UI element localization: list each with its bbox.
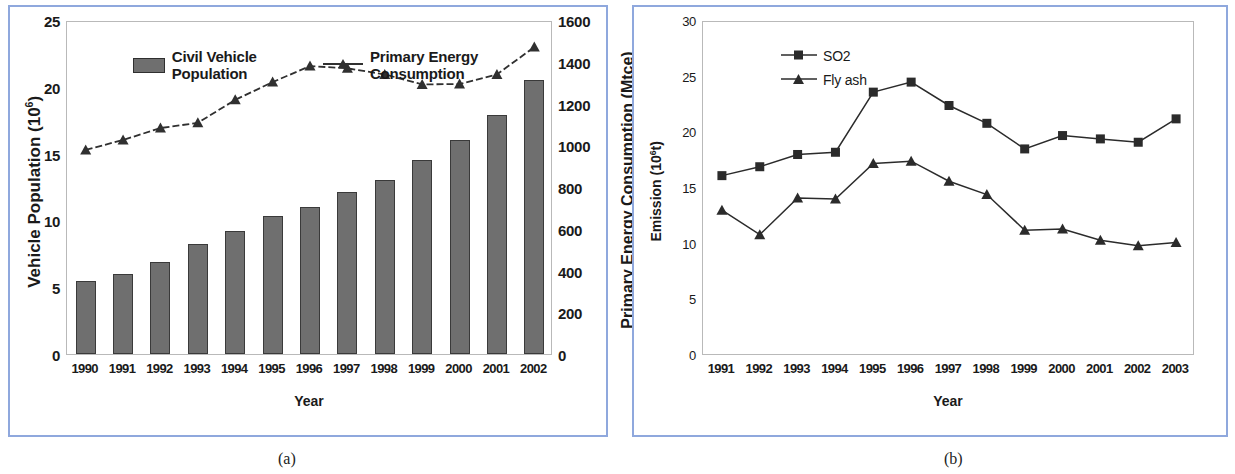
- x-axis-title-a: Year: [66, 393, 552, 409]
- x-axis-tick-label: 2003: [1162, 361, 1189, 376]
- y-axis-left-tick-label: 15: [44, 146, 60, 163]
- legend-line-triangle-icon: [781, 72, 817, 88]
- x-axis-tick-label: 1995: [859, 361, 886, 376]
- legend-label-fly-ash: Fly ash: [823, 72, 867, 88]
- chart-a: 0510152025 02004006008001000120014001600…: [10, 7, 606, 435]
- y-axis-title-b-exponent: 6: [648, 150, 658, 155]
- legend-entry-so2: SO2: [781, 48, 867, 64]
- x-axis-tick-label: 1996: [897, 361, 924, 376]
- y-axis-title-b-suffix: t): [648, 141, 664, 150]
- y-axis-tick-label: 30: [682, 14, 696, 29]
- legend-line-square-icon: [781, 48, 817, 64]
- y-axis-left-title-a-suffix: ): [25, 96, 44, 102]
- x-axis-tick-label: 1995: [258, 361, 285, 376]
- x-axis-tick-label: 1992: [146, 361, 173, 376]
- y-axis-right-tick-label: 800: [558, 180, 582, 197]
- y-axis-right-tick-label: 400: [558, 263, 582, 280]
- y-axis-tick-label: 15: [682, 181, 696, 196]
- x-axis-tick-label: 1993: [783, 361, 810, 376]
- y-axis-right-tick-label: 600: [558, 221, 582, 238]
- x-axis-tick-label: 1991: [708, 361, 735, 376]
- y-axis-left-tick-label: 20: [44, 79, 60, 96]
- legend-entry-fly-ash: Fly ash: [781, 72, 867, 88]
- x-axis-tick-label: 2000: [445, 361, 472, 376]
- x-axis-tick-label: 2001: [483, 361, 510, 376]
- panel-caption-b: (b): [944, 450, 963, 468]
- chart-b: 051015202530 SO2: [634, 7, 1226, 435]
- legend-bar-swatch-icon: [133, 58, 165, 73]
- x-axis-tick-label: 1998: [371, 361, 398, 376]
- legend-b: SO2 Fly ash: [781, 48, 867, 96]
- legend-label-civil-vehicle-population: Civil Vehicle Population: [172, 48, 316, 82]
- figure-panel-a: 0510152025 02004006008001000120014001600…: [8, 5, 608, 437]
- x-axis-tick-label: 1996: [296, 361, 323, 376]
- y-axis-right-tick-label: 1400: [558, 54, 590, 71]
- y-axis-right-tick-label: 0: [558, 347, 566, 364]
- figure-panel-b: 051015202530 SO2: [632, 5, 1228, 437]
- y-axis-tick-label: 20: [682, 125, 696, 140]
- x-axis-ticks-b: 1991199219931994199519961997199819992000…: [702, 361, 1194, 379]
- x-axis-tick-label: 1998: [973, 361, 1000, 376]
- x-axis-tick-label: 1993: [184, 361, 211, 376]
- y-axis-left-tick-label: 5: [52, 280, 60, 297]
- panel-caption-a: (a): [278, 450, 296, 468]
- y-axis-right-tick-label: 1000: [558, 138, 590, 155]
- x-axis-tick-label: 1999: [408, 361, 435, 376]
- y-axis-left-title-a-exponent: 6: [23, 102, 35, 108]
- y-axis-right-tick-label: 1200: [558, 96, 590, 113]
- y-axis-tick-label: 10: [682, 236, 696, 251]
- x-axis-tick-label: 1991: [109, 361, 136, 376]
- x-axis-tick-label: 1994: [821, 361, 848, 376]
- x-axis-ticks-a: 1990199119921993199419951996199719981999…: [66, 361, 552, 379]
- plot-area-b: SO2 Fly ash: [702, 21, 1194, 355]
- x-axis-title-b: Year: [702, 393, 1194, 409]
- x-axis-tick-label: 1994: [221, 361, 248, 376]
- y-axis-left-tick-label: 10: [44, 213, 60, 230]
- x-axis-tick-label: 2001: [1086, 361, 1113, 376]
- legend-label-primary-energy-consumption: Primary Energy Consumption: [370, 48, 551, 82]
- legend-label-so2: SO2: [823, 48, 850, 64]
- y-axis-title-b: Emission (106t): [648, 91, 665, 291]
- legend-a: Civil Vehicle Population Primary Energy …: [133, 48, 551, 82]
- x-axis-tick-label: 2002: [520, 361, 547, 376]
- y-axis-right-tick-label: 200: [558, 305, 582, 322]
- x-axis-tick-label: 1990: [71, 361, 98, 376]
- y-axis-left-tick-label: 25: [44, 13, 60, 30]
- y-axis-tick-label: 0: [689, 348, 696, 363]
- x-axis-tick-label: 2000: [1048, 361, 1075, 376]
- y-axis-right-ticks-a: 02004006008001000120014001600: [558, 21, 602, 355]
- x-axis-tick-label: 1992: [746, 361, 773, 376]
- y-axis-tick-label: 25: [682, 69, 696, 84]
- x-axis-tick-label: 1997: [333, 361, 360, 376]
- y-axis-left-title-a-prefix: Vehicle Population (10: [25, 107, 44, 287]
- line-series-emissions: [703, 22, 1195, 356]
- x-axis-tick-label: 2002: [1124, 361, 1151, 376]
- y-axis-tick-label: 5: [689, 292, 696, 307]
- plot-area-a: Civil Vehicle Population Primary Energy …: [66, 21, 552, 355]
- y-axis-title-b-prefix: Emission (10: [648, 155, 664, 241]
- y-axis-right-tick-label: 1600: [558, 13, 590, 30]
- y-axis-left-tick-label: 0: [52, 347, 60, 364]
- legend-line-triangle-icon: [323, 57, 363, 74]
- y-axis-left-title-a: Vehicle Population (106): [23, 72, 45, 312]
- x-axis-tick-label: 1999: [1010, 361, 1037, 376]
- x-axis-tick-label: 1997: [935, 361, 962, 376]
